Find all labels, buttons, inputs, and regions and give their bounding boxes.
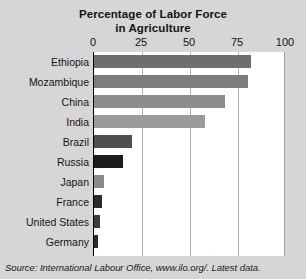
- chart-title-line-2: in Agriculture: [0, 22, 306, 36]
- bar: [94, 195, 102, 208]
- bar: [94, 135, 132, 148]
- source-note: Source: International Labour Office, www…: [5, 262, 261, 273]
- x-tick-label: 0: [90, 36, 96, 48]
- bar-row: [94, 132, 286, 152]
- x-tick-label: 25: [135, 36, 147, 48]
- x-tick-label: 50: [183, 36, 195, 48]
- bar: [94, 55, 251, 68]
- bar: [94, 95, 225, 108]
- bar-row: [94, 152, 286, 172]
- bar: [94, 115, 205, 128]
- x-tick-label: 75: [231, 36, 243, 48]
- category-axis-labels: EthiopiaMozambiqueChinaIndiaBrazilRussia…: [0, 52, 89, 256]
- bar-row: [94, 172, 286, 192]
- category-label: Russia: [0, 156, 89, 168]
- bar-row: [94, 92, 286, 112]
- bar: [94, 235, 98, 248]
- category-label: Mozambique: [0, 76, 89, 88]
- category-label: Ethiopia: [0, 56, 89, 68]
- bar: [94, 155, 123, 168]
- category-label: India: [0, 116, 89, 128]
- bar-row: [94, 192, 286, 212]
- category-label: China: [0, 96, 89, 108]
- bar: [94, 215, 100, 228]
- x-axis-tick-labels: 0255075100: [93, 36, 285, 50]
- chart-title-line-1: Percentage of Labor Force: [0, 8, 306, 22]
- category-label: Brazil: [0, 136, 89, 148]
- category-label: France: [0, 196, 89, 208]
- bar-row: [94, 232, 286, 252]
- plot-area: [93, 52, 285, 256]
- x-tick-label: 100: [276, 36, 294, 48]
- bar-row: [94, 112, 286, 132]
- bar-row: [94, 72, 286, 92]
- chart-title: Percentage of Labor Force in Agriculture: [0, 8, 306, 35]
- chart-figure: Percentage of Labor Force in Agriculture…: [0, 0, 306, 279]
- bar: [94, 175, 104, 188]
- category-label: United States: [0, 216, 89, 228]
- bar: [94, 75, 248, 88]
- bar-row: [94, 52, 286, 72]
- bar-row: [94, 212, 286, 232]
- category-label: Germany: [0, 236, 89, 248]
- category-label: Japan: [0, 176, 89, 188]
